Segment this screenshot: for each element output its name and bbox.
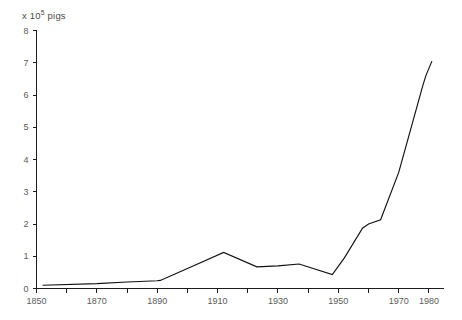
- x-axis: 18501870189019101930195019701980: [26, 289, 444, 306]
- y-tick-group: 012345678: [23, 26, 36, 294]
- data-series-group: [43, 61, 432, 285]
- y-tick-label: 5: [23, 122, 28, 132]
- y-tick-label: 6: [23, 90, 28, 100]
- y-axis: 012345678: [23, 26, 36, 294]
- y-tick-label: 4: [23, 155, 28, 165]
- chart-figure: x 105 pigs 012345678 1850187018901910193…: [0, 0, 462, 320]
- x-tick-label: 1850: [26, 296, 46, 306]
- y-tick-label: 2: [23, 219, 28, 229]
- x-tick-label: 1950: [328, 296, 348, 306]
- x-tick-label: 1970: [389, 296, 409, 306]
- y-tick-label: 0: [23, 284, 28, 294]
- x-tick-label: 1890: [147, 296, 167, 306]
- x-tick-label: 1930: [268, 296, 288, 306]
- data-line-pigs: [43, 61, 432, 285]
- y-tick-label: 3: [23, 187, 28, 197]
- y-tick-label: 8: [23, 26, 28, 36]
- x-tick-group: 18501870189019101930195019701980: [26, 289, 438, 306]
- x-tick-label: 1980: [419, 296, 439, 306]
- y-tick-label: 1: [23, 251, 28, 261]
- x-tick-label: 1910: [208, 296, 228, 306]
- line-chart-plot: 012345678 185018701890191019301950197019…: [0, 0, 462, 320]
- x-tick-label: 1870: [87, 296, 107, 306]
- y-tick-label: 7: [23, 58, 28, 68]
